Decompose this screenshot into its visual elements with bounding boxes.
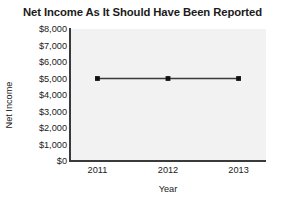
- y-axis-tick-label: $0: [1, 156, 67, 166]
- data-series-layer: [70, 29, 266, 161]
- data-point-marker: [166, 76, 171, 81]
- data-point-marker: [236, 76, 241, 81]
- x-axis-title: Year: [70, 184, 266, 194]
- y-axis-tick-label: $6,000: [1, 57, 67, 67]
- y-axis-tick-label: $1,000: [1, 140, 67, 150]
- y-axis-tick-label: $2,000: [1, 123, 67, 133]
- y-axis-tick-label: $5,000: [1, 74, 67, 84]
- y-axis-tick-label: $7,000: [1, 41, 67, 51]
- y-axis-tick-label: $3,000: [1, 107, 67, 117]
- x-axis-tick-label: 2011: [88, 165, 108, 175]
- data-point-marker: [95, 76, 100, 81]
- x-axis-tick-label: 2012: [158, 165, 178, 175]
- x-axis-tick-label: 2013: [228, 165, 248, 175]
- x-axis-title-text: Year: [159, 184, 178, 194]
- y-axis-tick-labels: $0$1,000$2,000$3,000$4,000$5,000$6,000$7…: [0, 0, 67, 207]
- chart-container: Net Income As It Should Have Been Report…: [0, 0, 285, 207]
- y-axis-tick-label: $8,000: [1, 24, 67, 34]
- y-axis-tick-label: $4,000: [1, 90, 67, 100]
